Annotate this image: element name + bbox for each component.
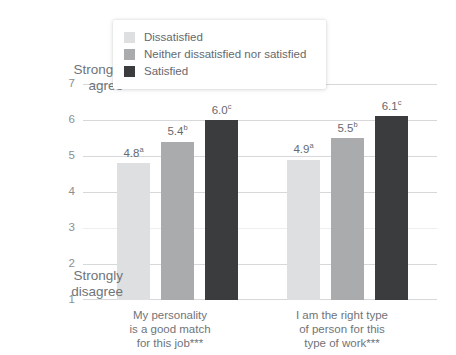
x-axis-category-label: My personalityis a good matchfor this jo… xyxy=(100,308,240,350)
x-axis-category-line: is a good match xyxy=(100,322,240,336)
bar: 5.5b xyxy=(331,138,364,300)
bar: 6.0c xyxy=(205,120,238,300)
x-axis-category-line: My personality xyxy=(100,308,240,322)
legend-color-swatch xyxy=(124,32,135,43)
x-axis-category-line: for this job*** xyxy=(100,336,240,350)
bar-value-label: 4.8a xyxy=(123,148,143,160)
scale-anchor-high-line1: Strongly xyxy=(35,62,123,78)
bar-value-label: 4.9a xyxy=(293,144,313,156)
bar-value-label: 5.5b xyxy=(337,123,357,135)
legend-color-swatch xyxy=(124,49,135,60)
x-axis-category-line: of person for this xyxy=(272,322,412,336)
legend-label: Dissatisfied xyxy=(144,32,203,44)
y-axis-tick-label: 2 xyxy=(49,258,75,270)
legend-label: Neither dissatisfied nor satisfied xyxy=(144,49,306,61)
bar-group: 4.9a 5.5b 6.1c xyxy=(287,84,413,300)
legend-color-swatch xyxy=(124,66,135,77)
y-axis-tick-label: 6 xyxy=(49,114,75,126)
bar-value-label: 5.4b xyxy=(167,126,187,138)
bar-group: 4.8a 5.4b 6.0c xyxy=(117,84,243,300)
y-axis: 7654321 xyxy=(45,84,75,300)
plot-area: 4.8a 5.4b 6.0c 4.9a 5.5b 6.1c Strongly xyxy=(83,84,437,300)
bar-value-label: 6.0c xyxy=(212,105,232,117)
bar: 4.9a xyxy=(287,160,320,300)
bar-value-label: 6.1c xyxy=(382,101,402,113)
y-axis-tick-label: 5 xyxy=(49,150,75,162)
x-axis-category-line: I am the right type xyxy=(272,308,412,322)
bar: 5.4b xyxy=(161,142,194,300)
legend: DissatisfiedNeither dissatisfied nor sat… xyxy=(113,20,326,89)
bar-chart: 4.8a 5.4b 6.0c 4.9a 5.5b 6.1c Strongly xyxy=(0,0,456,355)
y-axis-tick-label: 4 xyxy=(49,186,75,198)
y-axis-tick-label: 7 xyxy=(49,78,75,90)
x-axis-category-line: type of work*** xyxy=(272,336,412,350)
bar: 6.1c xyxy=(375,116,408,300)
legend-item[interactable]: Dissatisfied xyxy=(124,29,306,46)
legend-item[interactable]: Satisfied xyxy=(124,63,306,80)
legend-item[interactable]: Neither dissatisfied nor satisfied xyxy=(124,46,306,63)
x-axis-category-label: I am the right typeof person for thistyp… xyxy=(272,308,412,350)
y-axis-tick-label: 3 xyxy=(49,222,75,234)
legend-label: Satisfied xyxy=(144,66,188,78)
y-axis-tick-label: 1 xyxy=(49,294,75,306)
